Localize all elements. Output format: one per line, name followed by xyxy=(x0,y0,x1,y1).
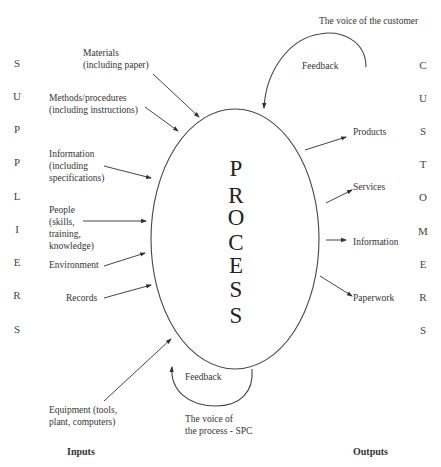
input-materials: Materials (including paper) xyxy=(83,47,149,71)
customers-letter: M xyxy=(416,225,430,237)
outputs-footer-label: Outputs xyxy=(353,446,388,458)
inputs-footer-label: Inputs xyxy=(67,446,95,458)
suppliers-letter: S xyxy=(10,323,24,335)
input-methods: Methods/procedures (including instructio… xyxy=(49,92,138,116)
arrow-methods xyxy=(145,107,178,131)
process-letter: P xyxy=(221,157,251,181)
input-records: Records xyxy=(66,292,97,304)
feedback-top-label: Feedback xyxy=(302,60,338,72)
input-information: Information (including specifications) xyxy=(49,148,104,184)
input-environment: Environment xyxy=(49,259,99,271)
output-services: Services xyxy=(353,181,385,193)
arrow-services xyxy=(326,190,352,203)
suppliers-letter: P xyxy=(10,156,24,168)
voice-of-customer-label: The voice of the customer xyxy=(319,15,418,27)
customers-letter: S xyxy=(416,125,430,137)
customers-letter: E xyxy=(416,258,430,270)
input-people: People (skills, training, knowledge) xyxy=(49,204,94,252)
customers-letter: C xyxy=(416,59,430,71)
voice-of-process-label: The voice of the process - SPC xyxy=(185,413,252,437)
suppliers-letter: U xyxy=(10,90,24,102)
output-information: Information xyxy=(353,236,398,248)
output-products: Products xyxy=(353,126,386,138)
suppliers-letter: E xyxy=(10,256,24,268)
arrow-materials xyxy=(153,74,199,117)
suppliers-letter: S xyxy=(10,57,24,69)
suppliers-letter: L xyxy=(10,190,24,202)
process-letter: E xyxy=(221,254,251,278)
process-letter: S xyxy=(221,278,251,302)
arrow-environment xyxy=(104,253,145,266)
customers-letter: R xyxy=(416,291,430,303)
suppliers-letter: I xyxy=(10,223,24,235)
arrow-information-in xyxy=(104,166,151,178)
process-diagram: P R O C E S S S U P P L I E R S C U S T … xyxy=(0,0,441,467)
process-letter: O xyxy=(221,206,251,230)
process-letter: S xyxy=(221,304,251,328)
process-letter: C xyxy=(221,231,251,255)
arrow-records xyxy=(104,285,151,298)
customers-letter: T xyxy=(416,158,430,170)
customers-letter: O xyxy=(416,191,430,203)
arrow-paperwork xyxy=(320,276,352,296)
input-equipment: Equipment (tools, plant, computers) xyxy=(49,404,117,428)
customers-letter: U xyxy=(416,92,430,104)
suppliers-letter: P xyxy=(10,123,24,135)
suppliers-letter: R xyxy=(10,289,24,301)
customers-letter: S xyxy=(416,324,430,336)
output-paperwork: Paperwork xyxy=(353,292,394,304)
arrow-products xyxy=(305,137,346,150)
arrow-equipment xyxy=(104,339,171,401)
feedback-bottom-label: Feedback xyxy=(185,371,221,383)
